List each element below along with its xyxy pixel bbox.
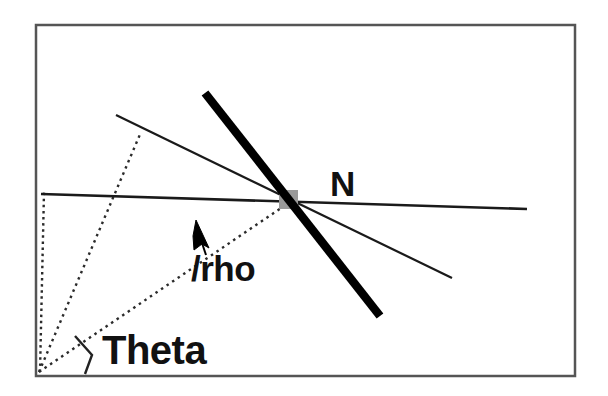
theta-label: Theta — [102, 330, 206, 370]
rho-label: /rho — [191, 251, 255, 286]
normal-point-label: N — [330, 166, 355, 201]
figure-canvas: Theta /rho N — [0, 0, 608, 396]
diagram-svg — [0, 0, 608, 396]
outer-border — [36, 25, 575, 376]
